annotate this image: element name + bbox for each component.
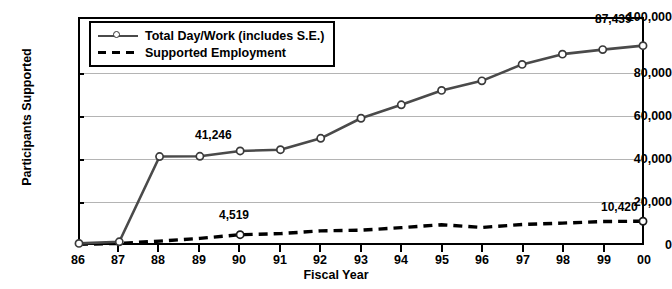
x-tick-mark-92 [319,245,321,252]
x-tick-mark-94 [400,245,402,252]
y-tick-label-0: 0 [600,238,672,252]
y-tick-label-80000: 80,000 [600,66,672,80]
annotation-total-90: 41,246 [195,128,232,142]
x-tick-mark-95 [441,245,443,252]
legend-item-supported-employment[interactable]: Supported Employment [98,44,324,61]
x-tick-mark-87 [117,245,119,252]
legend-label-supported-employment: Supported Employment [145,46,286,60]
x-tick-mark-99 [603,245,605,252]
x-tick-label-94: 94 [381,253,421,267]
y-tick-mark-40000 [78,159,84,161]
x-tick-mark-98 [562,245,564,252]
annotation-se-90: 4,519 [219,208,249,222]
y-tick-label-60000: 60,000 [600,109,672,123]
y-tick-mark-80000 [78,73,84,75]
x-tick-label-86: 86 [58,253,98,267]
x-tick-label-00: 00 [624,253,664,267]
x-tick-label-87: 87 [98,253,138,267]
x-tick-label-95: 95 [422,253,462,267]
x-tick-mark-97 [522,245,524,252]
legend: Total Day/Work (includes S.E.) Supported… [89,21,335,67]
legend-label-total-day-work: Total Day/Work (includes S.E.) [145,29,324,43]
x-tick-mark-88 [157,245,159,252]
x-tick-mark-91 [279,245,281,252]
x-tick-label-92: 92 [300,253,340,267]
x-tick-mark-96 [481,245,483,252]
legend-item-total-day-work[interactable]: Total Day/Work (includes S.E.) [98,27,324,44]
chart-container: Participants Supported 100,000 80,000 60… [0,0,672,289]
y-tick-label-40000: 40,000 [600,152,672,166]
x-tick-mark-93 [360,245,362,252]
y-axis-title: Participants Supported [20,17,34,217]
x-tick-label-90: 90 [219,253,259,267]
x-tick-mark-90 [238,245,240,252]
x-tick-label-89: 89 [179,253,219,267]
x-tick-label-97: 97 [503,253,543,267]
annotation-total-00: 87,439 [595,12,632,26]
legend-dashed-line-icon [98,46,138,60]
x-axis-title: Fiscal Year [0,268,672,282]
x-tick-label-99: 99 [584,253,624,267]
x-tick-label-98: 98 [543,253,583,267]
x-tick-label-88: 88 [138,253,178,267]
x-tick-mark-89 [198,245,200,252]
annotation-se-00: 10,420 [601,200,638,214]
y-tick-mark-20000 [78,202,84,204]
x-tick-label-91: 91 [260,253,300,267]
y-tick-mark-60000 [78,116,84,118]
x-tick-label-96: 96 [462,253,502,267]
legend-line-marker-icon [98,29,138,43]
x-tick-label-93: 93 [341,253,381,267]
